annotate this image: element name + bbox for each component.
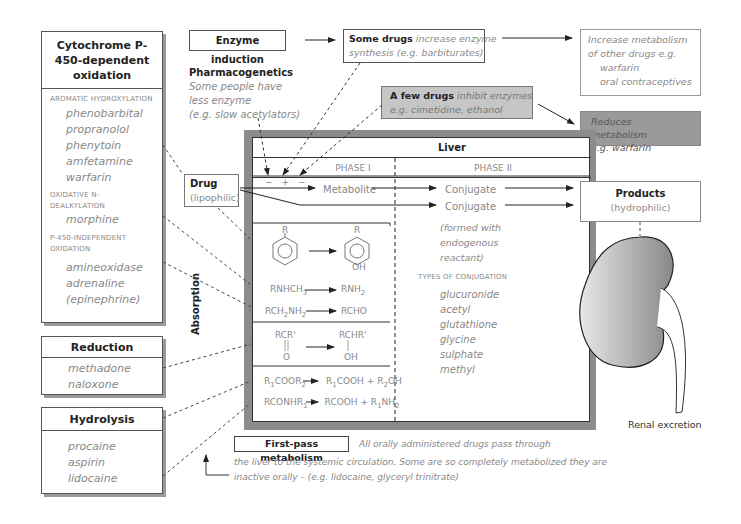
hydrolysis-title: Hydrolysis xyxy=(42,408,162,431)
drug-item: propranolol xyxy=(66,122,162,138)
ketone-label: RCR' xyxy=(275,330,296,340)
first-pass-text-2: the liver to the systemic circulation. S… xyxy=(234,455,607,469)
drug-box: Drug (lipophilic) xyxy=(184,174,239,207)
drug-item: amfetamine xyxy=(66,154,162,170)
amide-hydrolysis: RCONHR1 RCOOH + R1NH2 xyxy=(264,397,400,410)
some-drugs-box: Some drugs increase enzyme synthesis (e.… xyxy=(343,29,485,63)
drug-item: adrenaline xyxy=(66,276,162,292)
absorption-label: Absorption xyxy=(190,273,201,335)
conjugation-types: glucuronide acetyl glutathione glycine s… xyxy=(440,287,499,377)
products-box: Products (hydrophilic) xyxy=(580,181,701,222)
alcohol-oh-label: OH xyxy=(344,352,358,362)
drug-item: naloxone xyxy=(68,377,162,393)
reaction-product: RNH2 xyxy=(341,284,365,297)
conjugate-label-2: Conjugate xyxy=(445,199,496,215)
reaction-reactant: RCH2NH2 xyxy=(265,306,306,319)
drug-item: methadone xyxy=(68,361,162,377)
drug-item: morphine xyxy=(66,212,162,228)
benzene-r-label: R xyxy=(354,225,360,235)
alcohol-label: RCHR' xyxy=(339,330,367,340)
liver-title: Liver xyxy=(253,138,591,158)
reduces-metabolism-box: Reduces metabolism e.g. warfarin xyxy=(580,111,701,146)
section-heading: AROMATIC HYDROXYLATION xyxy=(50,95,162,103)
drug-item: lidocaine xyxy=(68,471,162,487)
arrow-icon xyxy=(538,104,574,124)
section-heading: OXIDATIVE N-DEALKYLATION xyxy=(50,190,140,212)
cytochrome-box: Cytochrome P-450-dependent oxidation ARO… xyxy=(41,31,163,323)
drug-item: aspirin xyxy=(68,455,162,471)
ketone-o-label: O xyxy=(283,352,290,362)
reduction-title: Reduction xyxy=(42,337,162,358)
phase1-label: PHASE I xyxy=(313,159,393,177)
ester-hydrolysis: R1COOR2 R1COOH + R2OH xyxy=(264,376,402,389)
types-heading: TYPES OF CONJUGATION xyxy=(418,273,507,281)
drug-item: amineoxidase xyxy=(66,260,162,276)
metabolite-label: Metabolite xyxy=(323,182,376,198)
hydrolysis-box: Hydrolysis procaine aspirin lidocaine xyxy=(41,407,163,494)
enzyme-induction-box: Enzyme induction xyxy=(189,30,286,51)
benzene-oh-label: OH xyxy=(352,262,366,272)
pharmacogenetics: Pharmacogenetics Some people have less e… xyxy=(189,66,300,122)
regulation-signs: −+− xyxy=(265,177,315,187)
section-heading: P-450-INDEPENDENT OXIDATION xyxy=(50,233,150,255)
drug-item: phenobarbital xyxy=(66,106,162,122)
conjugate-label-1: Conjugate xyxy=(445,182,496,198)
increase-metabolism-box: Increase metabolism of other drugs e.g. … xyxy=(580,29,701,96)
cytochrome-title: Cytochrome P-450-dependent oxidation xyxy=(42,32,162,89)
first-pass-text-3: inactive orally – (e.g. lidocaine, glyce… xyxy=(234,470,459,484)
first-pass-text-1: All orally administered drugs pass throu… xyxy=(359,437,551,451)
benzene-r-label: R xyxy=(282,225,288,235)
renal-excretion-label: Renal excretion xyxy=(628,419,702,430)
drug-item: (epinephrine) xyxy=(66,292,162,308)
drug-item: warfarin xyxy=(66,170,162,186)
reaction-product: RCHO xyxy=(341,306,367,316)
reduction-box: Reduction methadone naloxone xyxy=(41,336,163,395)
reaction-reactant: RNHCH3 xyxy=(270,284,307,297)
drug-item: phenytoin xyxy=(66,138,162,154)
few-drugs-box: A few drugs inhibit enzymes e.g. cimetid… xyxy=(381,86,533,119)
first-pass-box: First-pass metabolism xyxy=(234,436,349,452)
phase2-label: PHASE II xyxy=(403,159,583,177)
drug-item: procaine xyxy=(68,439,162,455)
formed-with-note: (formed with endogenous reactant) xyxy=(440,220,501,265)
